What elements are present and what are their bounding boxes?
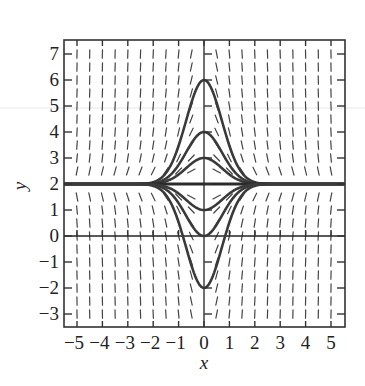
slope-segment xyxy=(178,76,179,84)
y-tick-label: 1 xyxy=(50,199,60,220)
slope-segment xyxy=(305,219,306,227)
slope-segment xyxy=(280,154,281,162)
slope-segment xyxy=(166,63,167,71)
slope-segment xyxy=(317,167,319,175)
slope-segment xyxy=(178,128,180,136)
slope-segment xyxy=(305,206,306,214)
slope-segment xyxy=(76,167,78,175)
slope-segment xyxy=(190,245,193,253)
slope-segment xyxy=(213,169,220,173)
slope-segment xyxy=(165,206,168,214)
slope-segment xyxy=(165,219,167,227)
slope-segment xyxy=(318,154,319,162)
slope-segment xyxy=(229,115,231,123)
slope-segment xyxy=(178,89,179,97)
slope-segment xyxy=(255,284,256,292)
slope-segment xyxy=(178,297,179,305)
slope-segment xyxy=(188,155,194,161)
slope-segment xyxy=(178,284,179,292)
slope-segment xyxy=(127,219,128,227)
slope-segment xyxy=(115,206,116,214)
slope-segment xyxy=(89,167,91,175)
slope-segment xyxy=(188,169,195,173)
slope-segment xyxy=(330,193,332,201)
slope-segment xyxy=(165,102,166,110)
slope-segment xyxy=(140,206,142,214)
slope-segment xyxy=(153,245,154,253)
slope-segment xyxy=(127,206,128,214)
slope-segment xyxy=(178,271,179,279)
slope-segment xyxy=(165,128,166,136)
slope-segment xyxy=(151,193,155,201)
slope-segment xyxy=(242,310,243,318)
slope-segment xyxy=(241,154,244,162)
slope-segment xyxy=(229,297,230,305)
slope-segment xyxy=(165,258,166,266)
slope-segment xyxy=(190,284,192,292)
slope-segment xyxy=(216,297,218,305)
slope-segment xyxy=(166,297,167,305)
slope-segment xyxy=(241,141,243,149)
slope-segment xyxy=(317,193,319,201)
slope-segment xyxy=(178,50,179,58)
x-tick-label: 0 xyxy=(199,332,209,353)
slope-segment xyxy=(267,154,269,162)
slope-segment xyxy=(280,115,281,123)
y-tick-label: 2 xyxy=(50,173,60,194)
slope-segment xyxy=(254,206,256,214)
slope-segment xyxy=(331,206,332,214)
slope-segment xyxy=(140,128,141,136)
slope-segment xyxy=(214,207,220,213)
slope-segment xyxy=(166,76,167,84)
slope-segment xyxy=(178,102,179,110)
slope-segment xyxy=(318,219,319,227)
slope-segment xyxy=(89,219,90,227)
slope-segment xyxy=(216,89,218,97)
slope-segment xyxy=(293,141,294,149)
slope-segment xyxy=(280,219,281,227)
slope-segment xyxy=(165,115,166,123)
slope-segment xyxy=(305,141,306,149)
slope-segment xyxy=(140,258,141,266)
y-axis-title: y xyxy=(9,181,30,192)
slope-segment xyxy=(267,219,268,227)
slope-segment xyxy=(76,193,78,201)
slope-segment xyxy=(178,258,179,266)
slope-segment xyxy=(331,154,332,162)
slope-segment xyxy=(153,271,154,279)
slope-segment xyxy=(153,89,154,97)
slope-segment xyxy=(255,89,256,97)
slope-segment xyxy=(127,154,128,162)
slope-segment xyxy=(190,89,192,97)
slope-segment xyxy=(253,193,257,201)
slope-segment xyxy=(77,154,78,162)
slope-segment xyxy=(254,141,255,149)
slope-segment xyxy=(166,271,167,279)
slope-segment xyxy=(253,167,257,175)
slope-segment xyxy=(242,76,243,84)
slope-segment xyxy=(165,141,167,149)
slope-segment xyxy=(115,219,116,227)
slope-segment xyxy=(292,167,294,175)
slope-segment xyxy=(305,154,306,162)
slope-segment xyxy=(318,141,319,149)
slope-segment xyxy=(267,206,269,214)
slope-segment xyxy=(101,167,103,175)
slope-segment xyxy=(127,141,128,149)
slope-segment xyxy=(140,245,141,253)
slope-segment xyxy=(267,115,268,123)
slope-segment xyxy=(102,128,103,136)
slope-segment xyxy=(254,115,255,123)
slope-segment xyxy=(266,193,269,201)
x-axis-title: x xyxy=(199,352,209,373)
slope-segment xyxy=(267,128,268,136)
x-tick-label: 1 xyxy=(225,332,235,353)
slope-segment xyxy=(305,193,307,201)
slope-segment xyxy=(101,193,103,201)
x-tick-labels: −5−4−3−2−1012345 xyxy=(64,332,336,353)
slope-segment xyxy=(330,167,332,175)
slope-segment xyxy=(318,206,319,214)
slope-segment xyxy=(254,245,255,253)
slope-segment xyxy=(242,50,243,58)
slope-segment xyxy=(280,245,281,253)
